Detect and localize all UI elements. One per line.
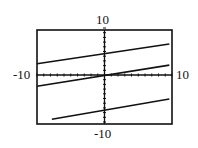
plot-line bbox=[52, 99, 169, 119]
x-max-label: 10 bbox=[176, 68, 189, 81]
x-min-label: -10 bbox=[13, 68, 30, 81]
y-max-label: 10 bbox=[96, 13, 109, 26]
y-min-label: -10 bbox=[94, 127, 111, 140]
